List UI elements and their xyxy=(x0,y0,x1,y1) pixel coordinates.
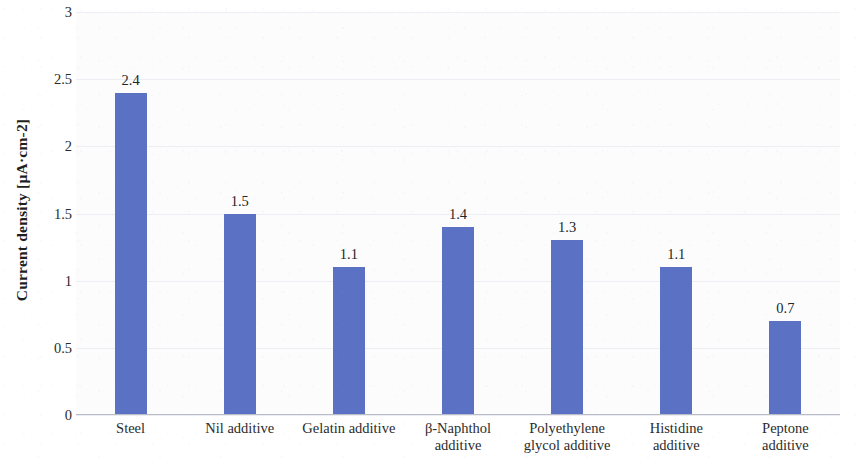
x-axis-tick-label-line: glycol additive xyxy=(505,437,629,454)
x-axis-tick-label-line: additive xyxy=(396,437,520,454)
bar xyxy=(333,267,365,415)
y-axis-tick-labels: 00.511.522.53 xyxy=(38,0,72,425)
x-axis-tick-label: β-Naphtholadditive xyxy=(396,420,520,454)
bar-value-label: 2.4 xyxy=(96,72,166,89)
x-axis-tick-label: Steel xyxy=(69,420,193,437)
gridline xyxy=(76,79,840,80)
bar xyxy=(769,321,801,415)
y-axis-tick-label: 2 xyxy=(38,138,72,155)
plot-area: 2.41.51.11.41.31.10.7 xyxy=(76,12,840,415)
y-axis-tick-label: 0 xyxy=(38,407,72,424)
x-axis-tick-label-line: Polyethylene xyxy=(505,420,629,437)
y-axis-tick-label: 0.5 xyxy=(38,339,72,356)
y-axis-tick-label: 3 xyxy=(38,4,72,21)
x-axis-tick-label: Peptoneadditive xyxy=(723,420,847,454)
y-axis-tick-label: 1.5 xyxy=(38,205,72,222)
x-axis-tick-label-line: additive xyxy=(723,437,847,454)
y-axis-tick-label: 2.5 xyxy=(38,71,72,88)
x-axis-tick-label-line: Histidine xyxy=(614,420,738,437)
bar xyxy=(115,93,147,415)
bar-chart-figure: Current density [µA·cm-2] 00.511.522.53 … xyxy=(0,0,856,465)
bar-value-label: 1.5 xyxy=(205,193,275,210)
bar-value-label: 1.1 xyxy=(641,246,711,263)
gridline xyxy=(76,12,840,13)
gridline xyxy=(76,415,840,416)
x-axis-tick-label: Polyethyleneglycol additive xyxy=(505,420,629,454)
bar-value-label: 1.4 xyxy=(423,206,493,223)
gridline xyxy=(76,146,840,147)
x-axis-tick-label: Gelatin additive xyxy=(287,420,411,437)
x-axis-tick-label: Histidineadditive xyxy=(614,420,738,454)
x-axis-tick-label-line: additive xyxy=(614,437,738,454)
x-axis-tick-label: Nil additive xyxy=(178,420,302,437)
x-axis-tick-label-line: Steel xyxy=(69,420,193,437)
x-axis-tick-label-line: Nil additive xyxy=(178,420,302,437)
bar xyxy=(224,214,256,416)
bar xyxy=(551,240,583,415)
bar-value-label: 0.7 xyxy=(750,300,820,317)
x-axis-tick-labels: SteelNil additiveGelatin additiveβ-Napht… xyxy=(76,420,840,465)
x-axis-tick-label-line: β-Naphthol xyxy=(396,420,520,437)
x-axis-line xyxy=(76,414,840,415)
bar xyxy=(660,267,692,415)
bar xyxy=(442,227,474,415)
bar-value-label: 1.1 xyxy=(314,246,384,263)
x-axis-tick-label-line: Gelatin additive xyxy=(287,420,411,437)
y-axis-tick-label: 1 xyxy=(38,272,72,289)
bar-value-label: 1.3 xyxy=(532,219,602,236)
y-axis-title-text: Current density [µA·cm-2] xyxy=(13,119,31,301)
x-axis-tick-label-line: Peptone xyxy=(723,420,847,437)
